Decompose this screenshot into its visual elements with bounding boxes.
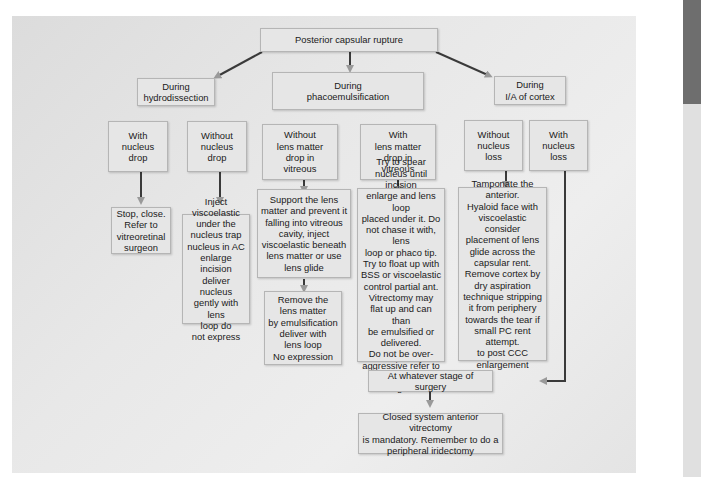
action-tamponate: Tamponate the anterior. Hyaloid face wit…	[458, 187, 547, 361]
condition-without-lens-matter-drop: Without lens matter drop in vitreous	[262, 124, 338, 180]
root-node-posterior-capsular-rupture: Posterior capsular rupture	[260, 28, 438, 52]
stage-hydrodissection: During hydrodissection	[137, 78, 215, 106]
page-edge-tab-dark	[683, 0, 701, 104]
condition-without-nucleus-drop: Without nucleus drop	[187, 121, 247, 172]
action-inject-viscoelastic: Inject viscoelastic under the nucleus tr…	[182, 214, 250, 324]
stage-phacoemulsification: During phacoemulsification	[272, 72, 424, 110]
action-remove-lens-matter: Remove the lens matter by emulsification…	[264, 291, 342, 365]
condition-without-nucleus-loss: Without nucleus loss	[464, 120, 523, 171]
condition-with-nucleus-drop: With nucleus drop	[108, 121, 168, 172]
stage-ia-cortex: During I/A of cortex	[494, 76, 566, 105]
action-support-lens-matter: Support the lens matter and prevent it f…	[257, 189, 351, 278]
final-node-anterior-vitrectomy: Closed system anterior vitrectomy is man…	[358, 413, 503, 454]
condition-with-nucleus-loss: With nucleus loss	[529, 120, 588, 171]
action-spear-nucleus: Try to spear nucleus until incision enla…	[357, 188, 445, 362]
action-stop-close: Stop, close. Refer to vitreoretinal surg…	[111, 207, 171, 254]
merge-node-any-stage: At whatever stage of surgery	[368, 370, 493, 392]
page-edge-tab-light	[683, 104, 701, 477]
